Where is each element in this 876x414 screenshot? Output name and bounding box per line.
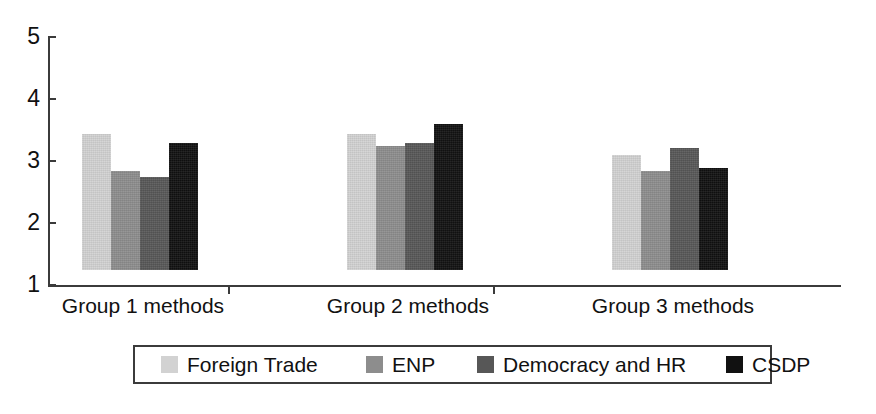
x-tick-sep-1: [228, 286, 230, 294]
bar-1-democracy-and-hr: [140, 177, 169, 270]
legend-label: ENP: [392, 354, 435, 375]
legend-item-democracy-and-hr[interactable]: Democracy and HR: [477, 354, 686, 375]
legend-label: CSDP: [752, 354, 810, 375]
category-label-group-1: Group 1 methods: [58, 294, 228, 318]
bar-3-foreign-trade: [612, 155, 641, 270]
x-tick-sep-2: [493, 286, 495, 294]
legend-swatch-icon: [366, 356, 383, 373]
bar-2-enp: [376, 146, 405, 270]
legend-label: Democracy and HR: [503, 354, 686, 375]
bar-2-csdp: [434, 124, 463, 270]
bar-1-foreign-trade: [82, 134, 111, 270]
bars-layer: [0, 0, 876, 285]
legend-item-enp[interactable]: ENP: [366, 354, 435, 375]
bar-chart: 5 4 3 2 1 Group 1 methods Group 2 method…: [0, 0, 876, 414]
legend-label: Foreign Trade: [187, 354, 318, 375]
bar-3-csdp: [699, 168, 728, 270]
plot-area: 5 4 3 2 1 Group 1 methods Group 2 method…: [0, 0, 876, 300]
bar-1-csdp: [169, 143, 198, 270]
x-axis-line: [48, 285, 841, 287]
category-label-group-3: Group 3 methods: [588, 294, 758, 318]
bar-3-enp: [641, 171, 670, 270]
legend-item-csdp[interactable]: CSDP: [726, 354, 810, 375]
bar-3-democracy-and-hr: [670, 148, 699, 270]
category-label-group-2: Group 2 methods: [323, 294, 493, 318]
chart-legend: Foreign TradeENPDemocracy and HRCSDP: [133, 345, 772, 384]
bar-2-democracy-and-hr: [405, 143, 434, 270]
legend-swatch-icon: [477, 356, 494, 373]
bar-1-enp: [111, 171, 140, 270]
legend-swatch-icon: [726, 356, 743, 373]
bar-2-foreign-trade: [347, 134, 376, 270]
legend-swatch-icon: [161, 356, 178, 373]
legend-item-foreign-trade[interactable]: Foreign Trade: [161, 354, 318, 375]
